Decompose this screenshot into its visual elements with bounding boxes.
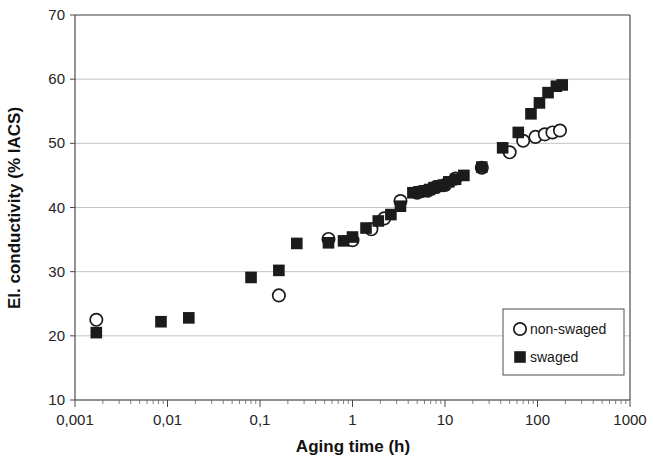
y-tick-label: 20	[48, 327, 65, 344]
data-point-swaged	[155, 316, 167, 328]
data-point-swaged	[525, 108, 537, 120]
data-point-swaged	[372, 215, 384, 227]
scatter-plot: 102030405060700,0010,010,11101001000 non…	[0, 0, 653, 460]
y-tick-label: 70	[48, 6, 65, 23]
data-point-non-swaged	[273, 289, 285, 301]
data-point-swaged	[323, 237, 335, 249]
chart-figure: 102030405060700,0010,010,11101001000 non…	[0, 0, 653, 460]
data-point-swaged	[91, 327, 103, 339]
x-tick-label: 100	[525, 411, 550, 428]
x-tick-label: 1	[348, 411, 356, 428]
y-tick-label: 10	[48, 391, 65, 408]
data-point-swaged	[347, 231, 359, 243]
data-point-non-swaged	[90, 314, 102, 326]
data-point-swaged	[291, 238, 303, 250]
y-tick-label: 30	[48, 263, 65, 280]
legend-marker-swaged-icon	[514, 351, 526, 363]
data-point-swaged	[273, 265, 285, 277]
y-tick-label: 40	[48, 199, 65, 216]
data-point-swaged	[497, 142, 509, 154]
legend: non-swagedswaged	[503, 309, 624, 375]
data-point-swaged	[512, 127, 524, 139]
legend-marker-non-swaged-icon	[514, 323, 526, 335]
data-point-swaged	[458, 170, 470, 182]
x-axis-title: Aging time (h)	[296, 437, 410, 456]
x-tick-label: 1000	[613, 411, 646, 428]
x-tick-label: 0,01	[153, 411, 182, 428]
data-point-swaged	[245, 272, 257, 284]
data-point-swaged	[556, 79, 568, 91]
y-axis-title: El. conductivity (% IACS)	[5, 107, 24, 309]
x-tick-label: 10	[437, 411, 454, 428]
data-point-swaged	[183, 312, 195, 324]
data-points	[90, 79, 568, 338]
data-point-swaged	[395, 200, 407, 212]
data-point-swaged	[534, 97, 546, 109]
data-point-non-swaged	[554, 124, 566, 136]
y-tick-label: 50	[48, 134, 65, 151]
x-tick-label: 0,1	[250, 411, 271, 428]
legend-box	[503, 309, 624, 375]
data-point-swaged	[476, 161, 488, 173]
legend-label-swaged: swaged	[530, 349, 578, 365]
y-tick-label: 60	[48, 70, 65, 87]
legend-label-non-swaged: non-swaged	[530, 321, 606, 337]
data-point-swaged	[360, 222, 372, 234]
x-tick-label: 0,001	[56, 411, 94, 428]
